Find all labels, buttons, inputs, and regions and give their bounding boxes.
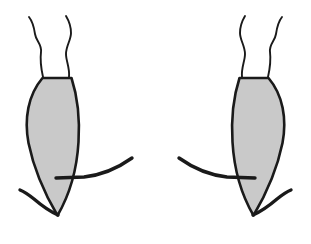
insect-pair-diagram: Pair of mirrored insect outline drawings — [0, 0, 311, 244]
illustration-canvas: Pair of mirrored insect outline drawings — [0, 0, 311, 244]
